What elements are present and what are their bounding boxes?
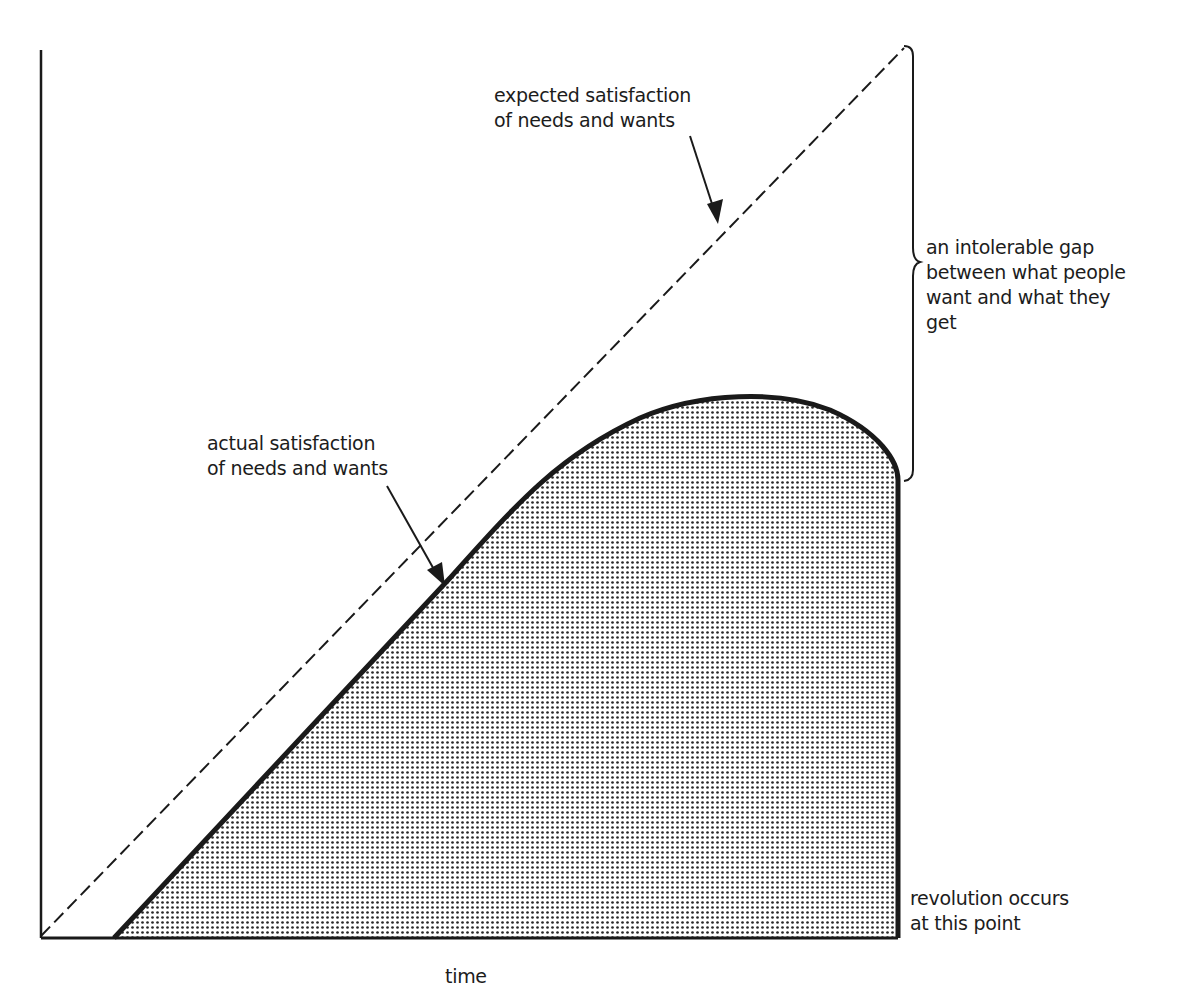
j-curve-diagram: expected satisfaction of needs and wants… (0, 0, 1181, 1004)
expected-arrow-line (690, 136, 714, 210)
expected-arrow-head-icon (707, 199, 723, 224)
revolution-point-label: revolution occurs at this point (910, 886, 1069, 936)
actual-arrow-head-icon (427, 562, 445, 586)
intolerable-gap-label: an intolerable gap between what people w… (926, 235, 1126, 335)
diagram-canvas (0, 0, 1181, 1004)
actual-satisfaction-label: actual satisfaction of needs and wants (207, 431, 388, 481)
gap-brace-icon (904, 46, 920, 481)
x-axis-label: time (445, 964, 487, 989)
actual-arrow-line (387, 486, 436, 573)
expected-satisfaction-label: expected satisfaction of needs and wants (494, 83, 691, 133)
